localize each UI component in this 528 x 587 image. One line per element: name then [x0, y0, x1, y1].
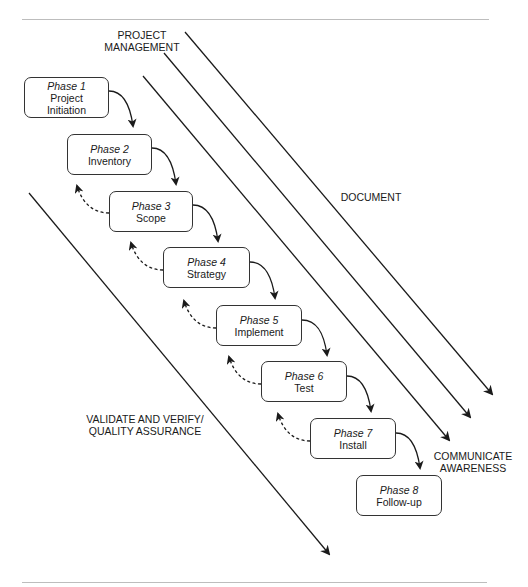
phase-name: Install — [339, 439, 366, 451]
phase-3-box: Phase 3 Scope — [109, 191, 193, 232]
phase-number: Phase 3 — [132, 200, 171, 212]
phase-number: Phase 8 — [380, 484, 419, 496]
phase-name: Scope — [136, 212, 166, 224]
phase-name: Follow-up — [376, 496, 422, 508]
phase-1-box: Phase 1 Project Initiation — [24, 77, 109, 118]
project-management-label: PROJECT MANAGEMENT — [104, 29, 180, 53]
phase-4-box: Phase 4 Strategy — [163, 247, 250, 288]
phase-8-box: Phase 8 Follow-up — [356, 475, 442, 516]
phase-number: Phase 1 — [47, 80, 86, 92]
validate-verify-label: VALIDATE AND VERIFY/ QUALITY ASSURANCE — [84, 413, 206, 437]
communicate-awareness-label: COMMUNICATE AWARENESS — [431, 450, 515, 474]
phase-name: Strategy — [187, 268, 226, 280]
phase-number: Phase 4 — [187, 256, 226, 268]
phase-2-box: Phase 2 Inventory — [67, 134, 152, 175]
phase-6-box: Phase 6 Test — [261, 361, 347, 402]
document-label: DOCUMENT — [340, 191, 402, 203]
phase-name: Inventory — [88, 155, 131, 167]
phase-number: Phase 6 — [285, 370, 324, 382]
phase-name: Project — [50, 92, 83, 104]
phase-name: Test — [294, 382, 313, 394]
phase-name: Initiation — [47, 104, 86, 116]
phase-number: Phase 5 — [240, 314, 279, 326]
phase-7-box: Phase 7 Install — [310, 418, 396, 459]
phase-number: Phase 2 — [90, 143, 129, 155]
phase-name: Implement — [234, 326, 283, 338]
phase-number: Phase 7 — [334, 427, 373, 439]
phase-5-box: Phase 5 Implement — [216, 305, 302, 346]
